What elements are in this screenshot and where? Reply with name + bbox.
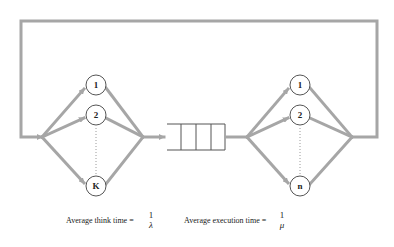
server-fork-edges <box>226 89 288 183</box>
server-join-edges <box>310 88 352 184</box>
server-node-2: 2 <box>290 105 310 125</box>
svg-text:n: n <box>297 181 302 191</box>
svg-text:2: 2 <box>298 110 303 120</box>
execution-time-denominator: μ <box>276 220 288 230</box>
think-node-1: 1 <box>86 75 106 95</box>
execution-time-numerator: 1 <box>276 210 288 220</box>
think-join-edges <box>106 88 164 184</box>
think-node-k: K <box>86 176 106 196</box>
svg-text:2: 2 <box>94 110 99 120</box>
queueing-network-diagram: 1 2 K 1 2 n <box>0 0 394 247</box>
execution-time-formula: 1 μ <box>276 210 288 230</box>
think-time-label: Average think time = <box>66 216 134 225</box>
execution-time-label: Average execution time = <box>184 216 266 225</box>
queue-buffer <box>167 124 225 150</box>
think-time-numerator: 1 <box>145 210 157 220</box>
server-node-n: n <box>290 176 310 196</box>
think-fork-edges <box>42 89 84 183</box>
svg-text:1: 1 <box>94 80 99 90</box>
think-time-formula: 1 λ <box>145 210 157 230</box>
svg-text:K: K <box>92 181 99 191</box>
think-time-denominator: λ <box>145 220 157 230</box>
think-node-2: 2 <box>86 105 106 125</box>
server-node-1: 1 <box>290 75 310 95</box>
feedback-loop <box>21 21 377 137</box>
svg-text:1: 1 <box>298 80 303 90</box>
